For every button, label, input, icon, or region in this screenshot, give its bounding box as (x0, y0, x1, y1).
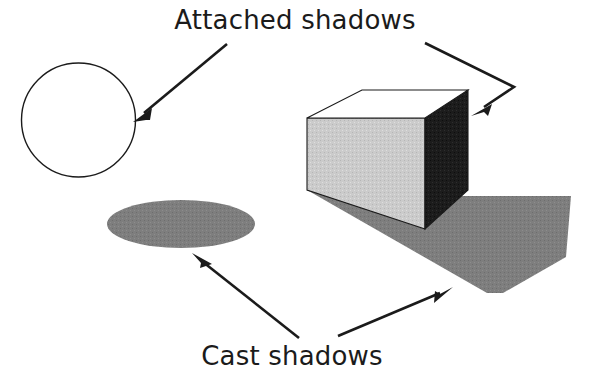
arrow-to-sphere (133, 44, 227, 122)
sphere-object (0, 58, 135, 182)
sphere-cast-shadow (107, 200, 255, 248)
arrow-to-ellipse-shadow (192, 253, 299, 338)
shadow-diagram-figure: Attached shadows Cast shadows (0, 0, 590, 375)
sphere-terminator-cut (0, 58, 122, 182)
diagram-canvas: Attached shadows Cast shadows (0, 0, 590, 375)
cast-shadows-label: Cast shadows (201, 341, 383, 371)
attached-shadows-label: Attached shadows (174, 5, 416, 35)
arrow-to-cube-shadow (338, 287, 453, 336)
cube-object (307, 90, 468, 229)
